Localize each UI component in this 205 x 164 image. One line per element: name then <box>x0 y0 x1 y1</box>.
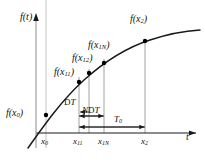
point-label-f-x11: f(x11) <box>54 67 74 78</box>
axes <box>33 13 196 148</box>
point-f-x0 <box>44 113 48 117</box>
annotation-dt: DT <box>64 98 76 107</box>
annotation-t0: T0 <box>114 115 122 125</box>
tick-label-x1N: x1N <box>98 137 109 147</box>
point-label-f-x1N: f(x1N) <box>88 40 110 51</box>
annotation-ndt: NDT <box>82 106 100 115</box>
function-curve <box>28 30 200 148</box>
x-axis-label: t <box>186 132 189 142</box>
x-axis-arrow <box>189 131 196 136</box>
point-label-f-x0: f(x0) <box>6 108 23 119</box>
tick-label-x11: x11 <box>73 137 83 147</box>
point-label-f-x2: f(x2) <box>130 14 147 25</box>
point-label-f-x12: f(x12) <box>72 53 92 64</box>
point-f-x12 <box>87 71 91 75</box>
tick-label-x2: x2 <box>141 137 148 147</box>
tick-label-x0: x0 <box>41 137 48 147</box>
point-f-x1N <box>102 61 106 65</box>
point-f-x2 <box>143 39 147 43</box>
y-axis-label: f(t) <box>20 12 32 22</box>
function-sampling-diagram: f(t) t f(x0) f(x11) f(x12) f(x1N) f(x2) … <box>0 0 205 164</box>
point-f-x11 <box>77 80 81 84</box>
y-axis-arrow <box>33 13 39 21</box>
